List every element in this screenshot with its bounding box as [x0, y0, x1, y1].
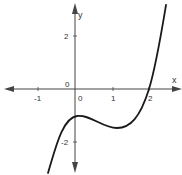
x-tick-label-2: 2 — [148, 94, 153, 103]
y-axis — [72, 3, 78, 173]
x-tick-label-neg1: -1 — [34, 94, 42, 103]
origin-label: 0 — [65, 80, 70, 89]
x-axis-right-arrow-icon — [172, 86, 182, 92]
x-axis-label: x — [172, 75, 177, 85]
x-tick-label-1: 1 — [111, 94, 116, 103]
cubic-function-graph: y x 0 -1 0 1 2 2 -2 — [0, 0, 182, 175]
y-tick-label-2: 2 — [64, 32, 69, 41]
x-tick-label-0: 0 — [78, 94, 83, 103]
x-axis-left-arrow-icon — [4, 86, 14, 92]
y-axis-label: y — [78, 10, 83, 20]
y-tick-label-neg2: -2 — [61, 138, 69, 147]
x-axis — [4, 86, 182, 92]
y-axis-down-arrow-icon — [72, 162, 78, 173]
